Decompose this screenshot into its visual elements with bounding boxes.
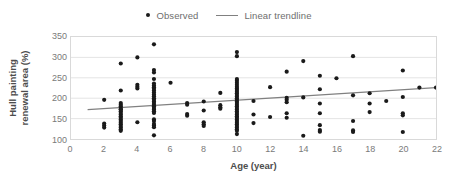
data-point [384, 99, 388, 103]
data-point [301, 134, 305, 138]
data-point [119, 129, 123, 133]
x-axis-title: Age (year) [70, 160, 437, 171]
data-point [318, 87, 322, 91]
y-tick-150: 150 [41, 114, 67, 124]
data-point [251, 99, 255, 103]
data-point [401, 68, 405, 72]
observed-series [102, 42, 436, 138]
x-tick-4: 4 [134, 144, 139, 154]
y-axis-title-wrapper: Hull painting renewal area (%) [2, 30, 36, 145]
chart-figure: Observed Linear trendline Hull painting … [0, 0, 458, 180]
data-point [401, 95, 405, 99]
plot-area [70, 36, 437, 140]
data-point [318, 111, 322, 115]
data-point [268, 85, 272, 89]
data-point [351, 93, 355, 97]
data-point [218, 107, 222, 111]
y-tick-200: 200 [41, 93, 67, 103]
legend-item-observed: Observed [146, 10, 198, 21]
data-point [235, 54, 239, 58]
trendline-icon [216, 15, 238, 16]
data-point [318, 130, 322, 134]
data-point [102, 126, 106, 130]
data-point [168, 81, 172, 85]
data-point [152, 42, 156, 46]
data-point [202, 99, 206, 103]
data-point [135, 120, 139, 124]
x-tick-12: 12 [265, 144, 275, 154]
data-point [301, 95, 305, 99]
x-axis-ticks: 0 2 4 6 8 10 12 14 16 18 20 22 [0, 144, 458, 158]
data-point [152, 111, 156, 115]
x-tick-10: 10 [232, 144, 242, 154]
data-point [351, 130, 355, 134]
data-point [152, 133, 156, 137]
gridlines [71, 57, 436, 118]
data-point [268, 115, 272, 119]
data-point [202, 108, 206, 112]
data-point [235, 132, 239, 136]
data-point [417, 86, 421, 90]
data-point [119, 61, 123, 65]
scatter-dot-icon [146, 13, 150, 17]
data-point [368, 91, 372, 95]
y-tick-250: 250 [41, 73, 67, 83]
data-point [251, 112, 255, 116]
chart-legend: Observed Linear trendline [0, 6, 458, 24]
y-tick-300: 300 [41, 52, 67, 62]
data-point [152, 77, 156, 81]
data-point [152, 70, 156, 74]
data-point [368, 110, 372, 114]
x-tick-8: 8 [201, 144, 206, 154]
data-point [285, 111, 289, 115]
x-tick-2: 2 [101, 144, 106, 154]
x-tick-14: 14 [298, 144, 308, 154]
data-point [351, 54, 355, 58]
x-tick-0: 0 [67, 144, 72, 154]
x-tick-20: 20 [399, 144, 409, 154]
data-point [185, 114, 189, 118]
data-point [351, 119, 355, 123]
data-point [135, 86, 139, 90]
data-point [119, 88, 123, 92]
y-axis-title-line1: Hull painting [7, 59, 18, 117]
data-point [301, 59, 305, 63]
x-tick-6: 6 [168, 144, 173, 154]
data-point [434, 86, 436, 90]
data-point [102, 98, 106, 102]
data-point [152, 125, 156, 129]
legend-item-trendline: Linear trendline [216, 10, 311, 21]
data-point [318, 123, 322, 127]
data-point [285, 116, 289, 120]
plot-svg [71, 37, 436, 139]
legend-label-trendline: Linear trendline [244, 10, 311, 21]
data-point [218, 91, 222, 95]
legend-label-observed: Observed [156, 10, 198, 21]
data-point [401, 113, 405, 117]
data-point [285, 100, 289, 104]
data-point [318, 74, 322, 78]
x-tick-18: 18 [365, 144, 375, 154]
data-point [235, 50, 239, 54]
data-point [119, 108, 123, 112]
data-point [185, 103, 189, 107]
data-point [318, 101, 322, 105]
data-point [251, 121, 255, 125]
y-axis-title-line2: renewal area (%) [19, 50, 30, 125]
data-point [334, 76, 338, 80]
data-point [401, 130, 405, 134]
y-axis-title: Hull painting renewal area (%) [7, 50, 31, 125]
data-point [135, 55, 139, 59]
y-tick-350: 350 [41, 31, 67, 41]
data-point [285, 70, 289, 74]
data-point [202, 124, 206, 128]
x-tick-16: 16 [332, 144, 342, 154]
x-tick-22: 22 [432, 144, 442, 154]
data-point [368, 101, 372, 105]
